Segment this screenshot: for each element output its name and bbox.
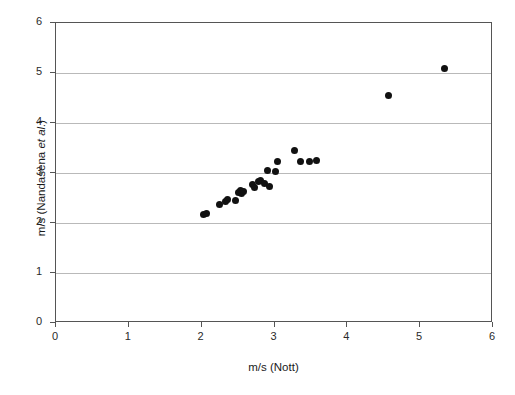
scatter-chart-figure: 0123456 0123456 m/s (Nott) m/s (Nandasen… [0, 0, 515, 395]
y-tick-mark-5 [50, 72, 55, 73]
plot-area [55, 22, 492, 322]
y-axis-title-text: m/s (Nandasena et al.) [35, 120, 47, 236]
data-point [385, 92, 392, 99]
x-tick-label: 6 [477, 331, 507, 342]
y-tick-mark-4 [50, 122, 55, 123]
y-axis-title-italic: et al. [35, 124, 47, 149]
data-point [224, 196, 231, 203]
y-axis-title: m/s (Nandasena et al.) [35, 58, 47, 298]
x-tick-label: 0 [40, 331, 70, 342]
y-tick-mark-6 [50, 22, 55, 23]
data-point [297, 158, 304, 165]
x-tick-mark-0 [55, 322, 56, 327]
y-tick-mark-1 [50, 272, 55, 273]
data-point [274, 158, 281, 165]
data-point [313, 157, 320, 164]
y-tick-mark-3 [50, 172, 55, 173]
data-point [264, 167, 271, 174]
x-tick-mark-3 [274, 322, 275, 327]
data-point [251, 184, 258, 191]
data-point [203, 210, 210, 217]
y-tick-label: 0 [20, 316, 42, 327]
x-tick-label: 5 [404, 331, 434, 342]
x-tick-mark-1 [128, 322, 129, 327]
data-point [291, 147, 298, 154]
x-axis-title: m/s (Nott) [55, 361, 492, 373]
x-tick-label: 4 [331, 331, 361, 342]
x-tick-label: 1 [113, 331, 143, 342]
data-points-layer [56, 23, 491, 321]
data-point [240, 188, 247, 195]
y-tick-label: 6 [20, 16, 42, 27]
x-tick-label: 3 [259, 331, 289, 342]
x-tick-mark-6 [492, 322, 493, 327]
x-tick-label: 2 [186, 331, 216, 342]
x-tick-mark-5 [419, 322, 420, 327]
data-point [272, 168, 279, 175]
data-point [232, 197, 239, 204]
data-point [306, 158, 313, 165]
y-tick-mark-2 [50, 222, 55, 223]
x-tick-mark-2 [201, 322, 202, 327]
x-tick-mark-4 [346, 322, 347, 327]
data-point [441, 65, 448, 72]
data-point [266, 183, 273, 190]
